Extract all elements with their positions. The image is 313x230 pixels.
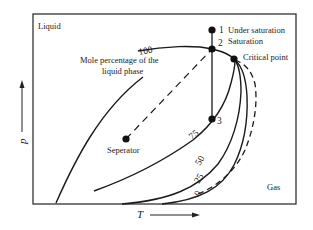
- point-3-id: 3: [217, 116, 222, 126]
- critical-point: [230, 55, 237, 62]
- curve-label-25: 25: [192, 172, 206, 185]
- point-2-id: 2: [218, 38, 223, 48]
- bubble-line-left: [56, 77, 143, 203]
- curve-label-0: 0: [192, 189, 203, 198]
- gas-label: Gas: [267, 182, 280, 192]
- separator-label: Seperator: [107, 145, 140, 155]
- curve-50: [122, 60, 241, 204]
- critical-point-label: Critical point: [243, 52, 289, 62]
- point-1: [208, 26, 215, 33]
- point-1-id: 1: [219, 25, 224, 35]
- curve-label-75: 75: [187, 128, 201, 142]
- curve-75: [94, 60, 235, 191]
- annotation-line1: Mole percentage of the: [80, 55, 159, 65]
- annotation-line2: liquid phase: [102, 66, 144, 76]
- separator-point: [122, 135, 129, 142]
- point-1-label: Under saturation: [228, 25, 286, 35]
- point-2-label: Saturation: [228, 36, 264, 46]
- point-3: [208, 115, 215, 122]
- x-axis-arrow: [150, 213, 200, 218]
- phase-diagram: p T Liquid Gas Mole percentage of the li…: [0, 0, 313, 230]
- y-axis-label: p: [16, 138, 28, 145]
- point-2: [208, 45, 215, 52]
- liquid-label: Liquid: [38, 21, 61, 31]
- curve-label-50: 50: [193, 154, 207, 167]
- y-axis-arrow: [20, 80, 25, 132]
- x-axis-label: T: [137, 208, 144, 220]
